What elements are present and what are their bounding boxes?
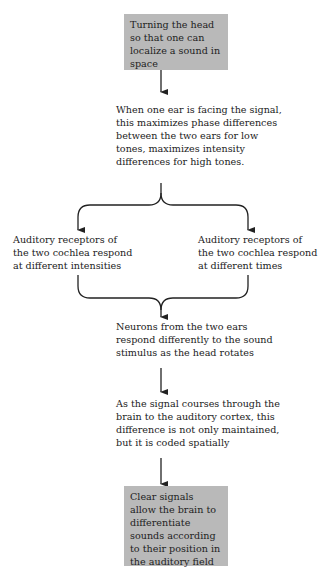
node-different-intensities: Auditory receptors of the two cochlea re…	[13, 233, 133, 272]
arrow-n3-n5	[78, 275, 161, 317]
node-signal-courses: As the signal courses through the brain …	[116, 397, 286, 449]
node-ear-facing-signal: When one ear is facing the signal, this …	[116, 103, 286, 168]
arrow-n2-n3	[78, 183, 161, 230]
node-different-times: Auditory receptors of the two cochlea re…	[198, 233, 318, 272]
arrow-n4-n5	[161, 275, 248, 310]
node-clear-signals: Clear signals allow the brain to differe…	[124, 486, 228, 566]
node-neurons-respond: Neurons from the two ears respond differ…	[116, 320, 276, 359]
node-turning-head: Turning the head so that one can localiz…	[124, 14, 228, 70]
arrow-n2-n4	[161, 193, 248, 230]
